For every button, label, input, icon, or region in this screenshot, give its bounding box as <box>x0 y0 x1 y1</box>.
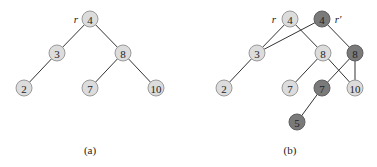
tree-node-8: 8 <box>315 45 331 61</box>
node-key: 8 <box>120 48 126 60</box>
tree-node-3: 3 <box>249 45 265 61</box>
persistent-bst-figure: 438271044388277105 rrr′ (a)(b) <box>0 0 377 167</box>
tree-node-4: 4 <box>282 11 298 27</box>
tree-node-4-new: 4 <box>314 11 330 27</box>
root-pointer-label: r′ <box>335 13 342 25</box>
node-key: 4 <box>87 14 93 26</box>
tree-node-4: 4 <box>82 11 98 27</box>
node-key: 7 <box>287 83 293 95</box>
root-labels: rrr′ <box>74 13 342 25</box>
tree-node-8: 8 <box>115 45 131 61</box>
node-key: 4 <box>319 14 325 26</box>
node-key: 8 <box>320 48 326 60</box>
node-key: 2 <box>221 83 227 95</box>
node-key: 5 <box>294 117 300 129</box>
node-key: 10 <box>151 83 163 95</box>
node-key: 3 <box>54 48 60 60</box>
tree-nodes: 438271044388277105 <box>16 11 363 130</box>
tree-node-2: 2 <box>216 80 232 96</box>
subfigure-caption: (a) <box>84 144 97 157</box>
tree-node-2: 2 <box>16 80 32 96</box>
node-key: 2 <box>21 83 27 95</box>
root-pointer-label: r <box>272 13 277 25</box>
tree-node-8-new: 8 <box>347 45 363 61</box>
tree-node-7: 7 <box>282 80 298 96</box>
root-pointer-label: r <box>74 13 79 25</box>
node-key: 7 <box>87 83 93 95</box>
tree-node-7-new: 7 <box>314 80 330 96</box>
node-key: 3 <box>254 48 260 60</box>
node-key: 10 <box>350 83 362 95</box>
subfigure-caption: (b) <box>284 144 297 157</box>
tree-node-3: 3 <box>49 45 65 61</box>
subfigure-captions: (a)(b) <box>84 144 297 157</box>
tree-edges <box>24 19 355 122</box>
tree-node-7: 7 <box>82 80 98 96</box>
tree-node-10: 10 <box>148 80 164 96</box>
node-key: 7 <box>319 83 325 95</box>
tree-node-10: 10 <box>347 80 363 96</box>
node-key: 8 <box>352 48 358 60</box>
tree-node-5-new: 5 <box>289 114 305 130</box>
node-key: 4 <box>287 14 293 26</box>
